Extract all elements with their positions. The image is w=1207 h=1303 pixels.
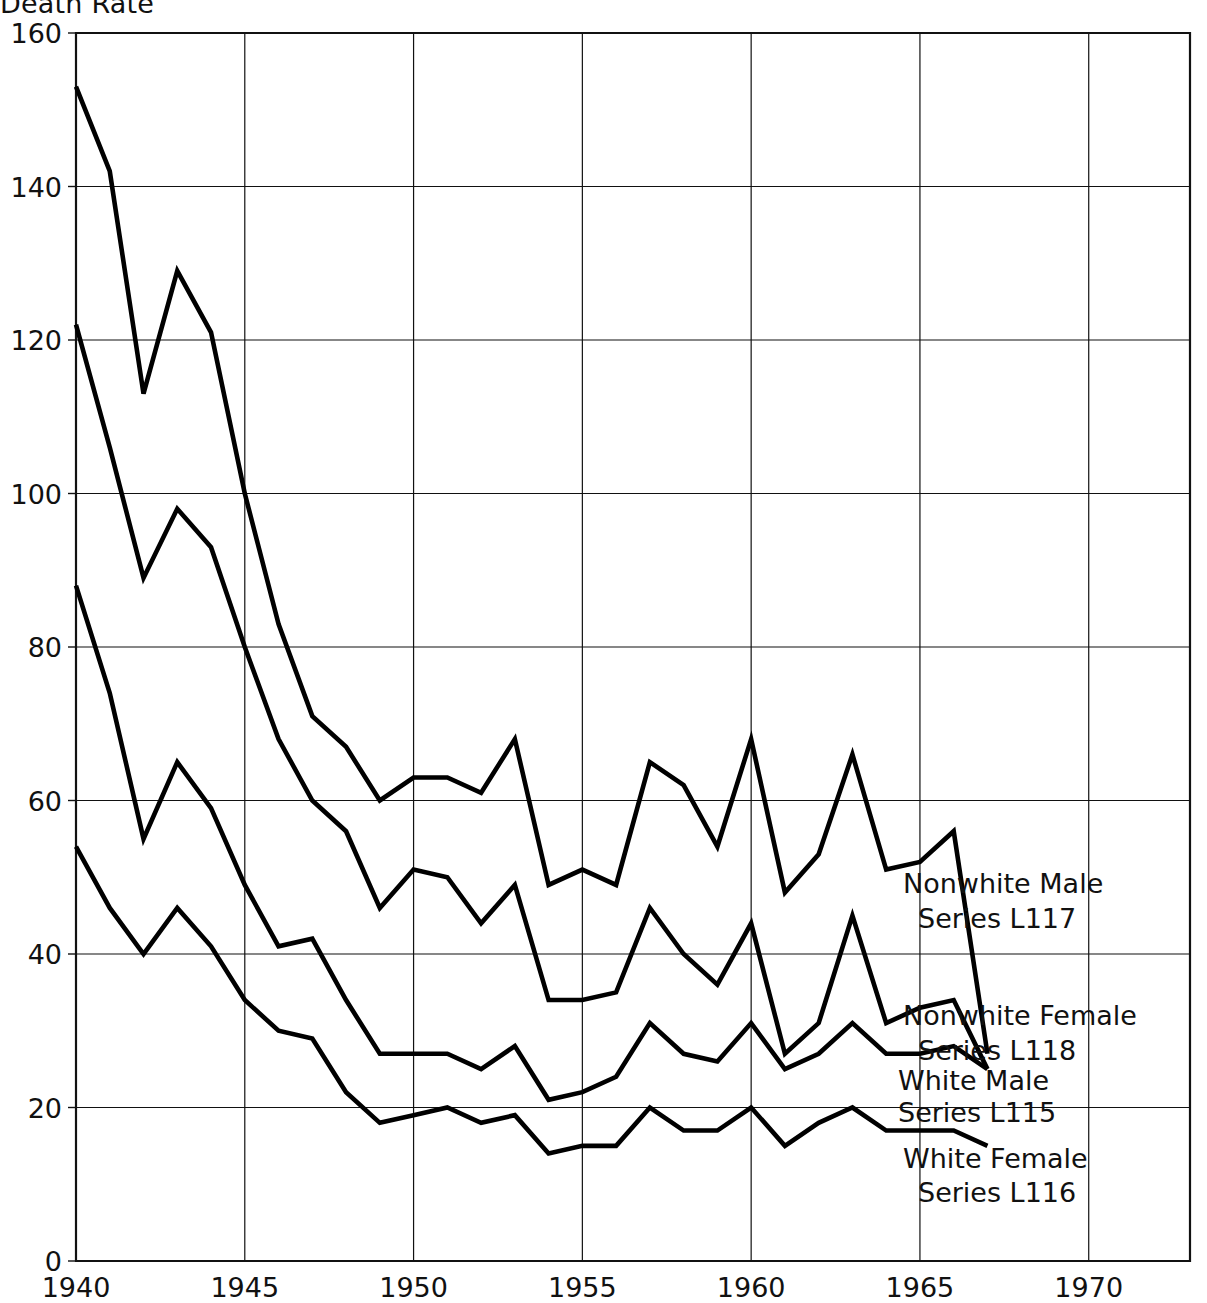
white-male-label: White Male: [898, 1065, 1049, 1096]
white-female-label: White Female: [903, 1143, 1088, 1174]
series-line: [76, 87, 987, 1054]
nonwhite-male-label: Nonwhite Male: [903, 868, 1103, 899]
nonwhite-female-label-code: Series L118: [918, 1035, 1076, 1066]
white-female-label-code: Series L116: [918, 1177, 1076, 1208]
white-male-label-code: Series L115: [898, 1097, 1056, 1128]
x-tick-label: 1950: [379, 1272, 448, 1303]
y-tick-label: 100: [10, 479, 62, 510]
x-tick-label: 1965: [886, 1272, 955, 1303]
series-line: [76, 325, 987, 1069]
nonwhite-female-label: Nonwhite Female: [903, 1000, 1137, 1031]
x-tick-label: 1940: [42, 1272, 111, 1303]
y-tick-label: 120: [10, 325, 62, 356]
y-tick-label: 40: [28, 939, 62, 970]
chart-container: Death Rate 160140120100806040200 1940194…: [0, 0, 1207, 1303]
y-axis-tick-labels: 160140120100806040200: [10, 18, 76, 1277]
y-tick-label: 80: [28, 632, 62, 663]
y-tick-label: 20: [28, 1093, 62, 1124]
line-chart-svg: 160140120100806040200 194019451950195519…: [0, 0, 1207, 1303]
series-annotations: Nonwhite MaleSeries L117Nonwhite FemaleS…: [898, 868, 1137, 1208]
nonwhite-male-label-code: Series L117: [918, 903, 1076, 934]
x-tick-label: 1955: [548, 1272, 617, 1303]
series-line: [76, 586, 987, 1100]
y-tick-label: 140: [10, 172, 62, 203]
x-axis-tick-labels: 1940194519501955196019651970: [42, 1272, 1123, 1303]
series-lines: [76, 87, 987, 1154]
x-tick-label: 1960: [717, 1272, 786, 1303]
y-tick-label: 60: [28, 786, 62, 817]
x-tick-label: 1945: [210, 1272, 279, 1303]
y-tick-label: 160: [10, 18, 62, 49]
x-tick-label: 1970: [1054, 1272, 1123, 1303]
